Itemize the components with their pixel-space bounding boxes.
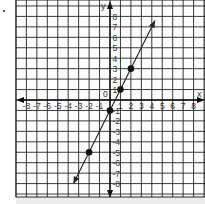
coordinate-plane: -8-7-6-5-4-3-2-11234567887654321-1-2-3-4… <box>0 0 205 204</box>
y-tick-label: 6 <box>113 33 118 43</box>
y-axis-up-arrow-icon <box>107 1 113 9</box>
axes <box>16 1 205 198</box>
x-tick-label: 5 <box>160 101 165 111</box>
x-tick-label: 6 <box>170 101 175 111</box>
x-tick-label: -1 <box>96 101 104 111</box>
y-tick-label: 5 <box>113 43 118 53</box>
y-tick-label: 1 <box>113 85 118 95</box>
data-point <box>107 107 114 114</box>
y-tick-label: -7 <box>113 169 121 179</box>
y-tick-label: -8 <box>113 179 121 189</box>
x-tick-label: 3 <box>139 101 144 111</box>
x-tick-label: -5 <box>54 101 62 111</box>
y-tick-label: -3 <box>113 127 121 137</box>
data-point <box>128 65 135 72</box>
x-tick-label: -4 <box>64 101 72 111</box>
x-tick-label: -3 <box>75 101 83 111</box>
y-tick-label: -5 <box>113 148 121 158</box>
origin-label: 0 <box>103 89 108 99</box>
y-tick-label: 7 <box>113 22 118 32</box>
x-tick-label: -8 <box>23 101 31 111</box>
x-axis-label: x <box>197 89 202 99</box>
y-tick-label: -2 <box>113 116 121 126</box>
y-tick-label: -1 <box>113 106 121 116</box>
x-tick-label: -6 <box>44 101 52 111</box>
x-tick-label: 2 <box>129 101 134 111</box>
y-tick-label: 2 <box>113 75 118 85</box>
y-tick-label: -6 <box>113 158 121 168</box>
data-point <box>117 86 124 93</box>
y-axis-label: y <box>101 1 106 11</box>
x-tick-label: -7 <box>33 101 41 111</box>
x-tick-label: 4 <box>149 101 154 111</box>
y-tick-label: -4 <box>113 137 121 147</box>
x-tick-label: -2 <box>85 101 93 111</box>
y-tick-label: 3 <box>113 64 118 74</box>
data-point <box>86 149 93 156</box>
x-tick-label: 7 <box>181 101 186 111</box>
y-tick-label: 4 <box>113 54 118 64</box>
y-tick-label: 8 <box>113 12 118 22</box>
x-tick-label: 8 <box>191 101 196 111</box>
